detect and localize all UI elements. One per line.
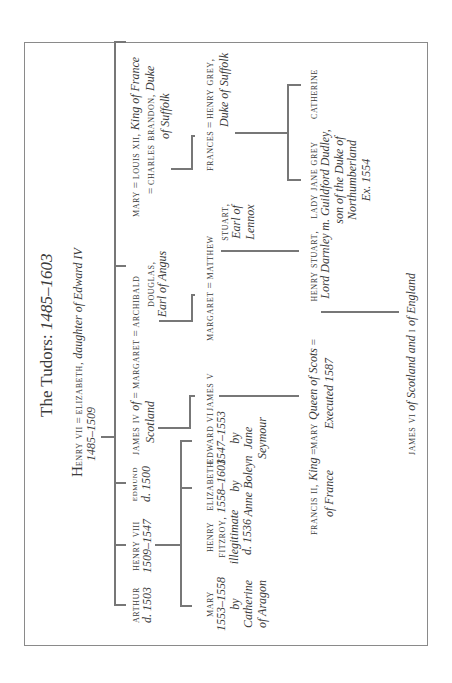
connector <box>158 427 190 429</box>
spouse-title: Lennox <box>244 197 257 247</box>
person-note: d. 1500 <box>140 459 153 509</box>
connector <box>114 544 126 546</box>
title-years: 1485–1603 <box>37 254 56 331</box>
charles-brandon: = charles brandon, Duke <box>144 66 157 194</box>
person-lady-jane-grey: lady jane grey m. Guildford Dudley, son … <box>307 125 373 235</box>
person-francis-ii: francis ii, King = <box>307 448 320 535</box>
marriage-sign: = <box>72 414 84 426</box>
spouse-name: charles brandon, <box>144 94 156 185</box>
person-years: 1553–1558 <box>215 575 228 633</box>
person-edward-vi: edward vi 1547–1553 by Jane Seymour <box>203 407 269 469</box>
connector <box>189 397 191 429</box>
connector <box>171 168 192 170</box>
person-name: margaret <box>203 291 215 341</box>
marriage-sign: = <box>307 448 319 457</box>
root-name-initial: H <box>69 466 85 477</box>
henry-grey-title: Duke of Suffolk <box>218 53 231 127</box>
connector <box>191 294 195 296</box>
matthew-stuart: stuart, Earl of Lennox <box>218 197 257 247</box>
title-text: The Tudors: <box>37 330 56 417</box>
james-iv-realm: Scotland <box>144 401 157 443</box>
spouse-title: Earl of Angus <box>156 241 169 327</box>
root-spouse: elizabeth, <box>72 362 84 415</box>
person-arthur: arthur d. 1503 <box>129 583 155 627</box>
person-note: of <box>128 401 142 413</box>
marriage-sign: = <box>307 339 319 348</box>
family-tree-canvas: The Tudors: 1485–1603 Henry vii = elizab… <box>25 43 429 647</box>
connector <box>114 604 126 606</box>
connector <box>191 137 193 170</box>
connector <box>159 320 192 322</box>
connector <box>191 135 195 137</box>
person-name: margaret <box>129 339 141 389</box>
mother-name: of Aragon <box>256 575 269 633</box>
marriage-sign: = <box>203 280 215 292</box>
connector <box>180 440 192 442</box>
connector <box>287 179 301 181</box>
person-note: d. 1503 <box>141 583 154 627</box>
person-name: francis ii, <box>307 484 319 535</box>
person-james-vi: james vi of Scotland and i of England <box>405 273 418 455</box>
person-james-v: james v <box>203 373 215 411</box>
connector <box>287 84 301 86</box>
connector <box>180 487 192 489</box>
person-name: james iv <box>129 414 141 455</box>
spouse-title: Duke <box>143 66 157 94</box>
spouse-name: louis xii, <box>129 133 141 179</box>
spouse-name: archibald <box>129 276 141 328</box>
by-label: by <box>229 575 242 633</box>
person-name: mary <box>307 423 319 449</box>
person-mary-i: mary 1553–1558 by Catherine of Aragon <box>203 575 269 633</box>
connector <box>114 482 126 484</box>
mother-name: Seymour <box>256 407 269 469</box>
person-james-iv: james iv of = <box>129 392 142 455</box>
connector <box>101 436 114 438</box>
person-note: of England <box>404 273 418 329</box>
connector <box>235 132 287 134</box>
mother-name: Catherine <box>242 575 255 633</box>
connector <box>219 395 299 397</box>
connector <box>287 85 289 181</box>
person-note: m. Guildford Dudley, <box>319 125 332 235</box>
connector <box>321 311 399 313</box>
person-note: Ex. 1554 <box>360 125 373 235</box>
connector <box>221 250 299 252</box>
person-note: King <box>306 457 320 483</box>
connector <box>189 395 195 397</box>
spouse-name: henry grey, <box>203 58 215 119</box>
root-name: enry vii <box>72 426 84 466</box>
person-note: Northumberland <box>346 125 359 235</box>
connector <box>114 265 126 267</box>
person-edmund: edmund d. 1500 <box>129 459 153 509</box>
person-note: 1509–1547 <box>141 515 154 577</box>
spouse-title: King of France <box>128 57 142 133</box>
connector <box>114 41 126 43</box>
marriage-sign: = <box>144 185 156 194</box>
person-note: of Scotland and <box>404 332 418 413</box>
mother-name: Jane <box>242 407 255 469</box>
connector <box>114 42 116 606</box>
person-margaret: margaret = archibald <box>129 276 141 390</box>
connector <box>180 605 192 607</box>
person-henry-viii: henry viii 1509–1547 <box>129 515 155 577</box>
spouse-name: matthew <box>203 235 215 279</box>
person-name: james vi <box>405 414 417 455</box>
family-tree-frame: The Tudors: 1485–1603 Henry vii = elizab… <box>24 42 428 646</box>
archibald-douglas: douglas, Earl of Angus <box>144 241 170 327</box>
marriage-sign: = <box>203 119 215 131</box>
person-years: 1547–1553 <box>215 407 228 469</box>
charles-brandon-title: of Suffolk <box>159 93 172 139</box>
mary-qos-executed: Executed 1587 <box>323 358 336 429</box>
connector <box>180 441 182 607</box>
marriage-sign: = <box>129 179 141 191</box>
marriage-sign: = <box>129 328 141 340</box>
person-catherine-grey: catherine <box>307 69 319 119</box>
root-spouse-note: daughter of Edward IV <box>71 248 85 362</box>
person-mary-queen-of-scots: mary Queen of Scots = <box>307 339 320 449</box>
person-margaret-douglas: margaret = matthew <box>203 235 215 341</box>
person-note: Queen of Scots <box>306 348 320 423</box>
person-name: mary <box>129 191 141 217</box>
marriage-sign: = <box>129 392 141 401</box>
connector <box>155 544 180 546</box>
person-frances-brandon: frances = henry grey, <box>203 58 215 171</box>
